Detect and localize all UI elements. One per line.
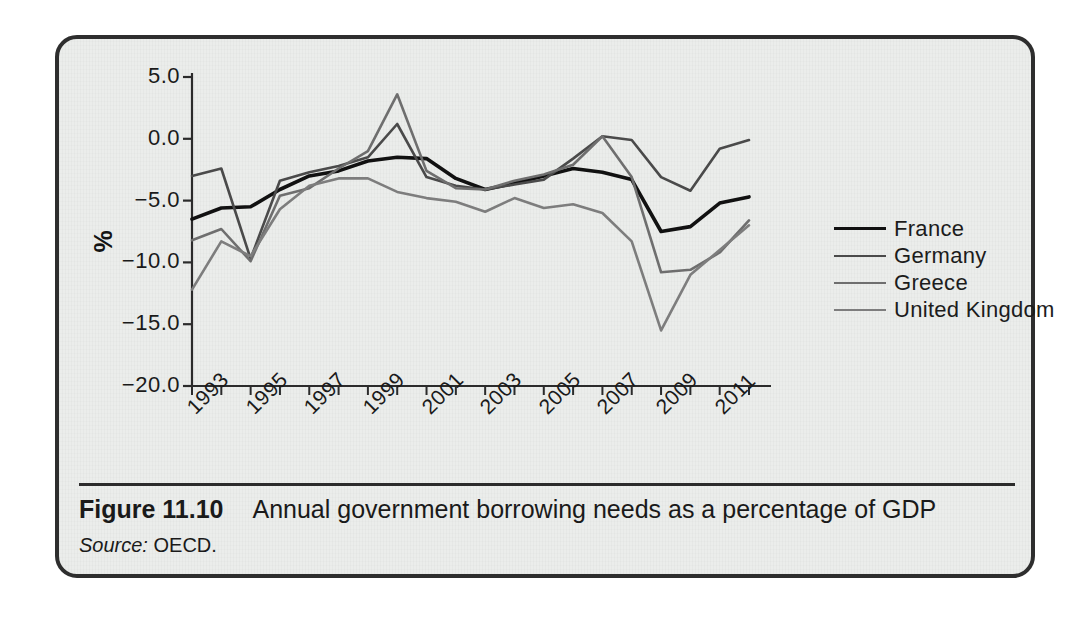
chart-legend: FranceGermanyGreeceUnited Kingdom bbox=[834, 215, 1034, 323]
y-axis-tick-label: −10.0 bbox=[88, 248, 180, 274]
legend-item: Germany bbox=[834, 242, 1034, 269]
series-line-germany bbox=[192, 124, 749, 259]
source-value: OECD. bbox=[154, 534, 217, 556]
legend-item-label: Greece bbox=[894, 270, 968, 296]
legend-item: France bbox=[834, 215, 1034, 242]
legend-line-swatch bbox=[834, 255, 886, 257]
legend-item: United Kingdom bbox=[834, 296, 1034, 323]
figure-source: Source: OECD. bbox=[79, 534, 217, 557]
source-label: Source: bbox=[79, 534, 148, 556]
legend-item: Greece bbox=[834, 269, 1034, 296]
y-axis-tick-label: −20.0 bbox=[88, 372, 180, 398]
y-axis-tick-label: 0.0 bbox=[88, 125, 180, 151]
legend-line-swatch bbox=[834, 282, 886, 284]
series-line-united-kingdom bbox=[192, 178, 749, 330]
figure-box: % 5.00.0−5.0−10.0−15.0−20.0 199319951997… bbox=[55, 35, 1035, 578]
figure-number: Figure 11.10 bbox=[79, 495, 224, 523]
y-axis-tick-label: −5.0 bbox=[88, 187, 180, 213]
legend-item-label: France bbox=[894, 216, 964, 242]
figure-caption: Figure 11.10 Annual government borrowing… bbox=[79, 495, 936, 524]
y-axis-tick-label: 5.0 bbox=[88, 63, 180, 89]
caption-divider bbox=[79, 483, 1015, 486]
legend-line-swatch bbox=[834, 227, 886, 230]
figure-root: % 5.00.0−5.0−10.0−15.0−20.0 199319951997… bbox=[0, 0, 1089, 618]
legend-item-label: Germany bbox=[894, 243, 987, 269]
figure-caption-text: Annual government borrowing needs as a p… bbox=[252, 495, 936, 523]
legend-item-label: United Kingdom bbox=[894, 297, 1055, 323]
y-axis-tick-label: −15.0 bbox=[88, 310, 180, 336]
legend-line-swatch bbox=[834, 309, 886, 311]
